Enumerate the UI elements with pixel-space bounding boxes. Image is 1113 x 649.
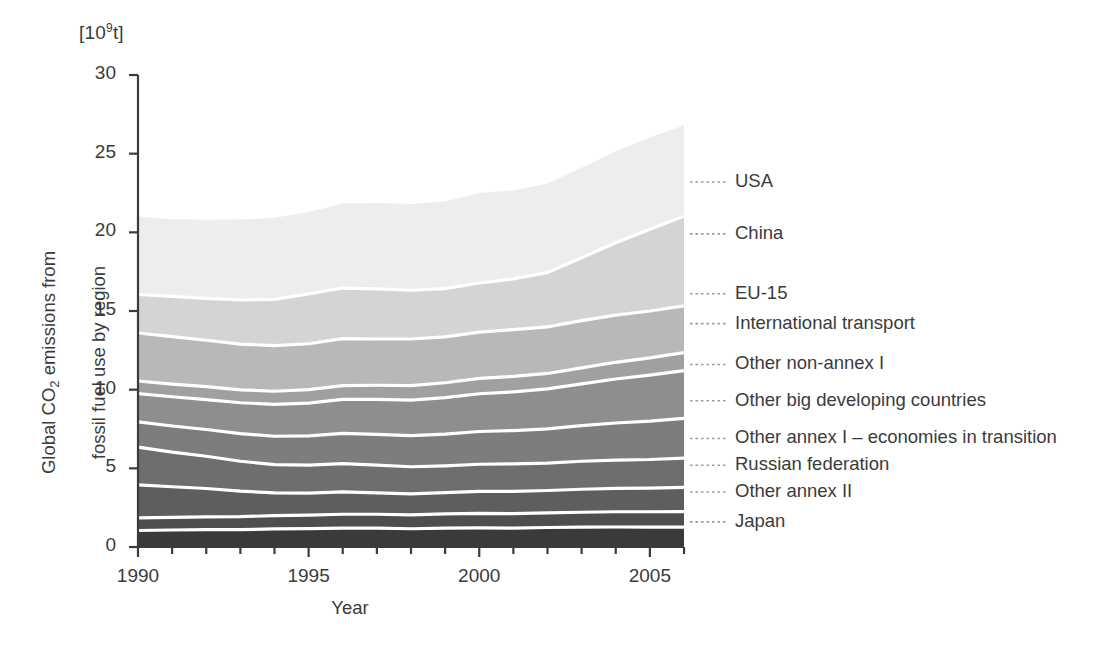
x-tick-label: 1990: [98, 565, 178, 587]
legend-label-russian-federation: Russian federation: [735, 453, 889, 475]
legend-label-usa: USA: [735, 170, 773, 192]
legend-label-other-non-annex-i: Other non-annex I: [735, 352, 884, 374]
legend-label-international-transport: International transport: [735, 312, 915, 334]
legend-label-other-big-developing-countries: Other big developing countries: [735, 389, 986, 411]
y-tick-label: 20: [76, 219, 116, 241]
stacked-area-chart-figure: [109t] Global CO2 emissions from fossil …: [0, 0, 1113, 649]
y-tick-label: 15: [76, 298, 116, 320]
legend-label-japan: Japan: [735, 510, 785, 532]
x-tick-label: 1995: [269, 565, 349, 587]
legend-label-eu-15: EU-15: [735, 282, 787, 304]
chart-plot-area: [0, 0, 1113, 649]
y-tick-label: 5: [76, 455, 116, 477]
x-tick-label: 2000: [439, 565, 519, 587]
y-tick-label: 25: [76, 141, 116, 163]
legend-label-other-annex-ii: Other annex II: [735, 480, 852, 502]
y-tick-label: 0: [76, 534, 116, 556]
x-tick-label: 2005: [610, 565, 690, 587]
legend-label-china: China: [735, 222, 783, 244]
y-tick-label: 30: [76, 62, 116, 84]
legend-label-other-annex-i-economies-in-transition: Other annex I – economies in transition: [735, 426, 1057, 448]
y-tick-label: 10: [76, 377, 116, 399]
